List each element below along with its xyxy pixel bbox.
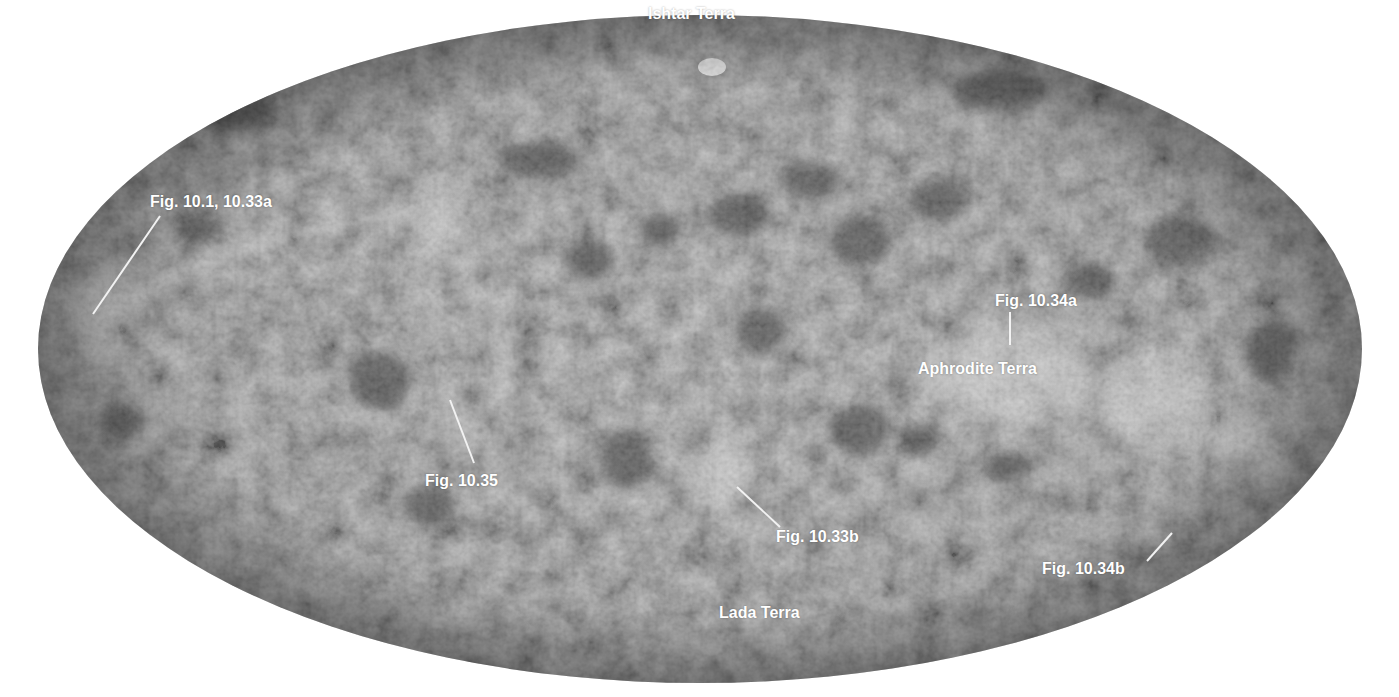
label-aphrodite-terra: Aphrodite Terra — [918, 360, 1037, 378]
label-fig-10-35: Fig. 10.35 — [425, 472, 498, 490]
label-lada-terra: Lada Terra — [719, 604, 800, 622]
label-ishtar-terra: Ishtar Terra — [648, 5, 735, 23]
label-fig-10-34a: Fig. 10.34a — [995, 292, 1077, 310]
venus-map: Ishtar Terra Fig. 10.1, 10.33a Fig. 10.3… — [0, 0, 1399, 697]
venus-surface-image — [0, 0, 1399, 697]
label-fig-10-1-10-33a: Fig. 10.1, 10.33a — [150, 193, 272, 211]
label-fig-10-34b: Fig. 10.34b — [1042, 560, 1125, 578]
label-fig-10-33b: Fig. 10.33b — [776, 528, 859, 546]
